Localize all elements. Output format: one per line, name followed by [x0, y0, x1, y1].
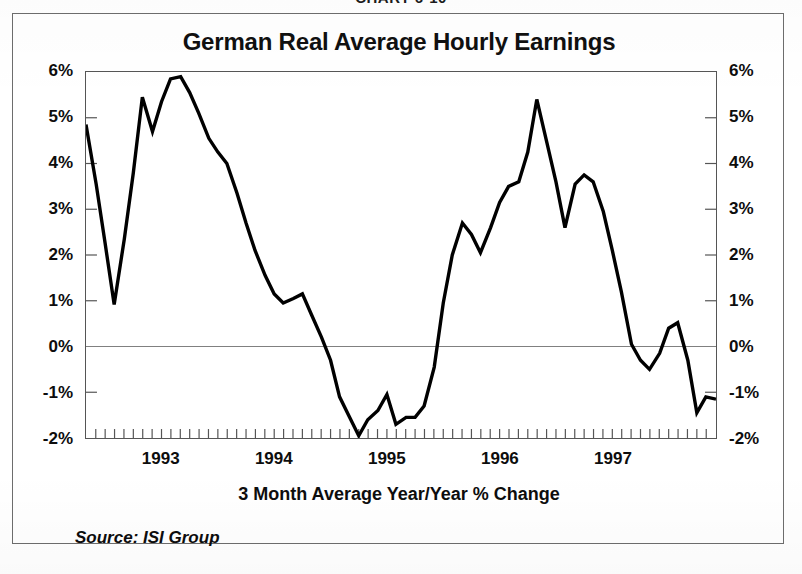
y-axis-label-right: 3%	[729, 199, 754, 219]
figure-frame: German Real Average Hourly Earnings 6%5%…	[12, 13, 784, 544]
y-axis-label-right: 6%	[729, 61, 754, 81]
y-axis-label-left: 1%	[13, 291, 73, 311]
x-tick-marks	[96, 429, 706, 438]
y-axis-label-right: -1%	[729, 383, 759, 403]
plot-svg	[86, 72, 716, 438]
y-axis-label-right: 0%	[729, 337, 754, 357]
y-axis-label-left: 2%	[13, 245, 73, 265]
x-axis-year-label: 1997	[573, 449, 653, 469]
x-axis-year-label: 1993	[121, 449, 201, 469]
x-axis-year-label: 1995	[347, 449, 427, 469]
y-axis-label-left: 5%	[13, 107, 73, 127]
y-axis-label-right: 4%	[729, 153, 754, 173]
chart-number-heading: CHART 6-10	[0, 0, 802, 3]
source-note: Source: ISI Group	[75, 528, 220, 548]
y-axis-label-left: 3%	[13, 199, 73, 219]
x-axis-caption: 3 Month Average Year/Year % Change	[13, 484, 785, 505]
plot-area	[85, 71, 717, 439]
y-axis-label-left: 4%	[13, 153, 73, 173]
y-axis-label-left: -2%	[13, 429, 73, 449]
y-tick-marks-right	[705, 118, 716, 393]
x-axis-year-label: 1996	[460, 449, 540, 469]
y-axis-label-right: 5%	[729, 107, 754, 127]
chart-title: German Real Average Hourly Earnings	[13, 28, 785, 56]
chart-page: CHART 6-10 German Real Average Hourly Ea…	[0, 0, 802, 574]
data-series-line	[86, 77, 716, 436]
y-axis-label-left: 0%	[13, 337, 73, 357]
y-axis-label-right: 1%	[729, 291, 754, 311]
y-axis-label-left: 6%	[13, 61, 73, 81]
y-axis-label-right: -2%	[729, 429, 759, 449]
y-axis-label-right: 2%	[729, 245, 754, 265]
x-axis-year-label: 1994	[234, 449, 314, 469]
y-axis-label-left: -1%	[13, 383, 73, 403]
